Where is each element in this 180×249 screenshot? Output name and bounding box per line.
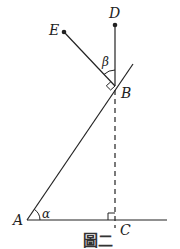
line-ab	[27, 64, 133, 220]
angle-beta-arc	[104, 70, 115, 74]
right-angle-mark-c	[108, 213, 115, 220]
right-angle-mark-b	[106, 82, 115, 90]
label-d: D	[108, 5, 120, 21]
point-d-dot	[113, 23, 118, 28]
label-a: A	[11, 212, 23, 228]
angle-alpha-arc	[34, 209, 40, 220]
figure-caption: 圖二	[83, 232, 113, 249]
label-c: C	[120, 222, 131, 238]
geometry-diagram: D E B A C β α 圖二	[0, 0, 180, 249]
label-e: E	[48, 22, 59, 38]
label-b: B	[120, 85, 131, 101]
label-beta: β	[101, 55, 109, 69]
label-alpha: α	[42, 207, 50, 221]
point-e-dot	[62, 30, 67, 35]
